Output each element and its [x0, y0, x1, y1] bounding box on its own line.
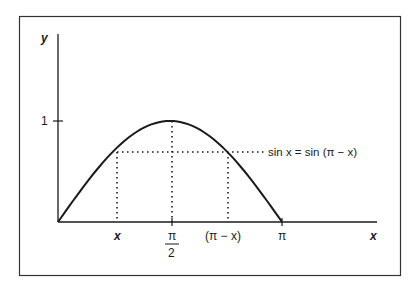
x-tick-label-pi-over-2-numerator: π [168, 229, 176, 243]
x-tick-label-pi-over-2-denominator: 2 [168, 246, 175, 260]
sine-symmetry-diagram: y 1 sin x = sin (π − x) x π 2 (π − x) π … [0, 0, 409, 285]
y-tick-label-1: 1 [41, 114, 48, 128]
sine-curve-line [58, 121, 282, 222]
y-axis-label: y [40, 31, 49, 45]
x-tick-label-x: x [113, 229, 122, 243]
x-axis-label: x [369, 229, 378, 243]
equation-label: sin x = sin (π − x) [268, 146, 357, 158]
x-tick-label-pi: π [278, 229, 286, 243]
x-tick-label-pi-minus-x: (π − x) [205, 229, 241, 243]
